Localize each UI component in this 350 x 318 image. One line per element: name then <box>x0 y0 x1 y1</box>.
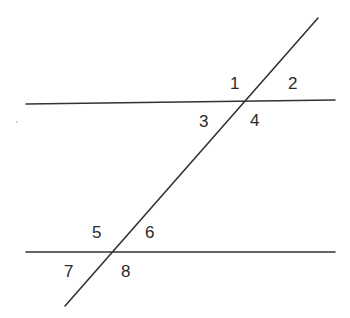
angle-label-5: 5 <box>92 223 101 242</box>
top-parallel-line <box>26 100 335 104</box>
angle-label-6: 6 <box>145 223 154 242</box>
parallel-lines-diagram: 1 2 3 4 5 6 7 8 <box>0 0 350 318</box>
stray-dot <box>16 121 18 123</box>
angle-label-8: 8 <box>121 262 130 281</box>
angle-label-1: 1 <box>230 74 239 93</box>
angle-label-4: 4 <box>250 111 259 130</box>
angle-label-3: 3 <box>199 112 208 131</box>
angle-label-2: 2 <box>288 74 297 93</box>
transversal-line <box>65 18 318 306</box>
angle-label-7: 7 <box>64 262 73 281</box>
